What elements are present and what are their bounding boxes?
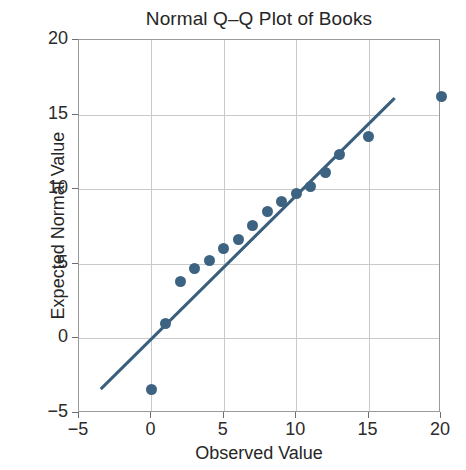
- x-tick: [440, 412, 441, 418]
- y-tick: [72, 337, 78, 338]
- x-tick-label: 5: [200, 419, 246, 440]
- y-tick: [72, 263, 78, 264]
- data-point: [320, 167, 331, 178]
- data-points-layer: [79, 40, 439, 411]
- y-axis-label: Expected Normal Value: [48, 76, 69, 376]
- chart-title: Normal Q–Q Plot of Books: [78, 8, 440, 30]
- data-point: [146, 384, 157, 395]
- x-tick-label: 0: [127, 419, 173, 440]
- x-tick-label: 10: [272, 419, 318, 440]
- plot-area: [78, 39, 440, 412]
- data-point: [218, 243, 229, 254]
- data-point: [305, 181, 316, 192]
- y-tick: [72, 412, 78, 413]
- x-tick: [368, 412, 369, 418]
- x-tick-label: 20: [417, 419, 463, 440]
- data-point: [233, 234, 244, 245]
- x-tick: [78, 412, 79, 418]
- data-point: [247, 220, 258, 231]
- x-tick: [150, 412, 151, 418]
- data-point: [436, 91, 447, 102]
- data-point: [204, 255, 215, 266]
- y-tick: [72, 114, 78, 115]
- y-tick-label: 20: [10, 28, 68, 49]
- data-point: [291, 188, 302, 199]
- x-tick-label: −5: [55, 419, 101, 440]
- y-tick-label: −5: [10, 401, 68, 422]
- y-tick: [72, 39, 78, 40]
- data-point: [363, 131, 374, 142]
- x-tick-label: 15: [345, 419, 391, 440]
- y-tick: [72, 188, 78, 189]
- x-tick: [295, 412, 296, 418]
- data-point: [276, 196, 287, 207]
- x-axis-label: Observed Value: [78, 443, 440, 464]
- x-tick: [223, 412, 224, 418]
- data-point: [262, 206, 273, 217]
- data-point: [175, 276, 186, 287]
- data-point: [160, 318, 171, 329]
- data-point: [189, 263, 200, 274]
- data-point: [334, 149, 345, 160]
- qq-plot-figure: Normal Q–Q Plot of Books −505101520 −505…: [0, 0, 466, 470]
